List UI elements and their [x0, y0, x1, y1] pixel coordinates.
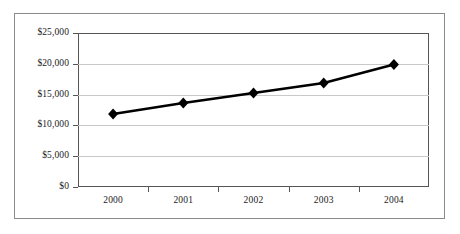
chart-figure: $0$5,000$10,000$15,000$20,000$25,000 200… — [0, 0, 460, 234]
data-point-marker — [389, 59, 399, 70]
line-series-svg — [0, 0, 460, 234]
data-point-marker — [108, 108, 118, 119]
data-point-marker — [178, 97, 188, 108]
data-point-marker — [249, 87, 259, 98]
line-series-markers — [108, 59, 399, 120]
data-point-marker — [319, 77, 329, 88]
